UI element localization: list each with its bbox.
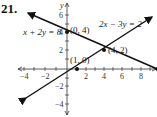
point-label: (4, 2) — [108, 45, 128, 55]
tick-label: 4 — [102, 72, 106, 81]
y-axis-label: y — [59, 1, 64, 10]
point-4-2 — [102, 48, 106, 52]
problem-number: 21. — [1, 1, 17, 16]
tick-label: −2 — [55, 82, 64, 91]
tick-label: −4 — [20, 72, 29, 81]
graph: 21. −4 −2 2 4 6 8 6 4 2 −2 −4 y x + — [0, 0, 157, 117]
line1-label: x + 2y = 8 — [22, 27, 62, 37]
point-0-4 — [65, 30, 69, 34]
point-1-0 — [75, 67, 79, 71]
tick-label: 2 — [59, 46, 63, 55]
point-label: (0, 4) — [70, 25, 90, 35]
tick-label: −4 — [55, 100, 64, 109]
point-label: (1, 0) — [70, 55, 90, 65]
tick-label: 2 — [84, 72, 88, 81]
tick-label: 6 — [59, 11, 63, 20]
tick-label: 6 — [120, 72, 124, 81]
line2-label: 2x − 3y = 2 — [99, 19, 142, 29]
tick-label: −2 — [41, 72, 50, 81]
tick-label: 8 — [139, 72, 143, 81]
